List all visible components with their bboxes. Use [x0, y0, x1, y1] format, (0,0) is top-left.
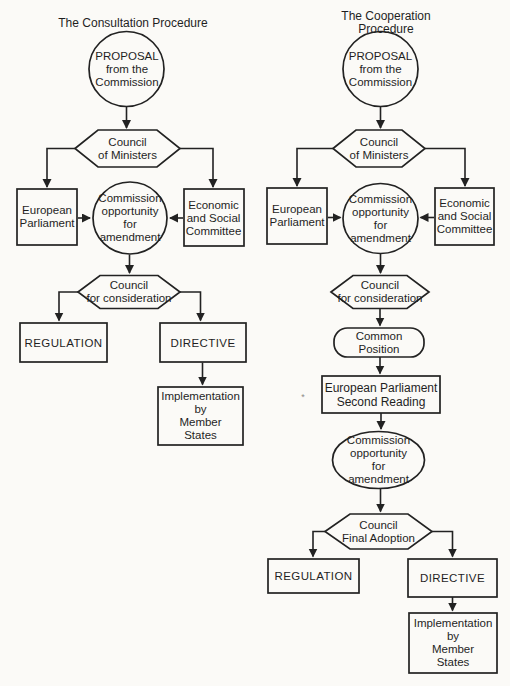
cooperation-commission-amendment2-label: Commission opportunity for amendment — [347, 434, 410, 486]
consultation-proposal-label: PROPOSAL from the Commission — [95, 50, 158, 89]
cooperation-council-ministers-label: Council of Ministers — [350, 136, 409, 162]
cooperation-commission-amendment-label: Commission opportunity for amendment — [349, 193, 412, 245]
cooperation-common-position-label: Common Position — [356, 330, 403, 356]
consultation-implementation-label: Implementation by Member States — [161, 390, 240, 442]
cooperation-directive-label: DIRECTIVE — [420, 572, 485, 585]
consultation-council-ministers-label: Council of Ministers — [98, 136, 157, 162]
consultation-commission-amendment-label: Commission opportunity for amendment — [98, 192, 161, 244]
consultation-directive-label: DIRECTIVE — [171, 336, 236, 349]
arrow-cooperation-final-adoption-to-directive — [432, 532, 453, 557]
consultation-european-parliament-label: European Parliament — [20, 204, 75, 230]
consultation-council-consideration-label: Council for consideration — [86, 279, 171, 305]
consultation-title: The Consultation Procedure — [58, 17, 207, 30]
cooperation-european-parliament-label: European Parliament — [270, 203, 325, 229]
flowchart-page: The Consultation Procedure PROPOSAL from… — [0, 0, 510, 686]
consultation-regulation-label: REGULATION — [25, 336, 103, 349]
arrow-consultation-consideration-to-directive — [180, 292, 201, 321]
arrow-cooperation-final-adoption-to-regulation — [313, 532, 325, 557]
arrow-consultation-council-to-parliament — [47, 149, 75, 188]
arrow-cooperation-council-to-parliament — [297, 149, 333, 187]
cooperation-council-final-adoption-label: Council Final Adoption — [342, 519, 415, 545]
footnote-asterisk-mark: * — [301, 392, 305, 402]
cooperation-regulation-label: REGULATION — [275, 570, 353, 583]
cooperation-ep-second-reading-label: European Parliament Second Reading — [325, 380, 438, 409]
cooperation-implementation-label: Implementation by Member States — [414, 617, 493, 669]
cooperation-proposal-label: PROPOSAL from the Commission — [349, 50, 412, 89]
arrow-consultation-consideration-to-regulation — [59, 292, 78, 321]
arrow-cooperation-council-to-committee — [425, 149, 465, 187]
cooperation-title: The Cooperation Procedure — [324, 10, 448, 36]
consultation-economic-social-label: Economic and Social Committee — [186, 198, 242, 237]
arrow-consultation-council-to-committee — [180, 149, 213, 188]
cooperation-council-consideration-label: Council for consideration — [337, 279, 422, 305]
cooperation-economic-social-label: Economic and Social Committee — [437, 197, 493, 236]
